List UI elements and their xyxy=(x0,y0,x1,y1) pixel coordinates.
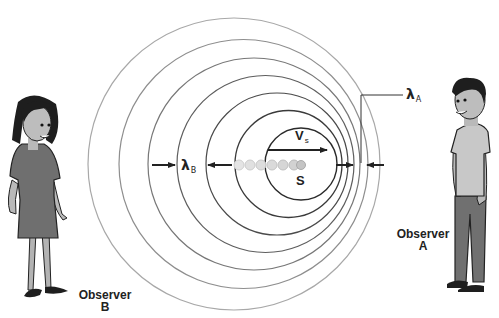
velocity-label: Vs xyxy=(295,128,309,145)
lambda-b-label: λB xyxy=(181,157,196,175)
observer-b-label: Observer B xyxy=(72,289,138,313)
observer-a-label: Observer A xyxy=(394,228,452,252)
doppler-diagram xyxy=(0,0,499,318)
observer-a-figure xyxy=(447,78,490,292)
source-dot xyxy=(297,161,306,170)
source-positions xyxy=(234,160,306,170)
lambda-a-label: λA xyxy=(406,86,421,104)
observer-b-figure xyxy=(8,95,68,297)
source-label: S xyxy=(296,173,305,188)
